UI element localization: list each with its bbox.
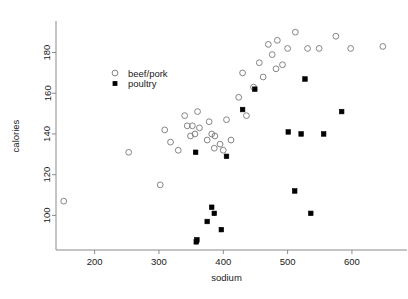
data-point-open-circle xyxy=(220,147,226,153)
data-point-filled-square xyxy=(224,154,229,159)
data-point-open-circle xyxy=(274,37,280,43)
x-tick-label: 500 xyxy=(280,256,296,267)
x-tick-label: 300 xyxy=(151,256,167,267)
y-axis-title: calories xyxy=(10,119,21,152)
plot-canvas: 100120140160180200300400500600sodiumcalo… xyxy=(0,0,408,299)
data-point-open-circle xyxy=(380,44,386,50)
data-point-filled-square xyxy=(209,205,214,210)
x-tick-label: 600 xyxy=(344,256,360,267)
x-tick-label: 400 xyxy=(215,256,231,267)
data-point-open-circle xyxy=(240,70,246,76)
legend-label-beef-pork: beef/pork xyxy=(128,68,168,79)
data-point-open-circle xyxy=(175,147,181,153)
scatter-plot-figure: 100120140160180200300400500600sodiumcalo… xyxy=(0,0,408,299)
data-point-open-circle xyxy=(61,198,67,204)
data-point-open-circle xyxy=(348,46,354,52)
legend-marker-filled-square xyxy=(113,81,118,86)
data-point-filled-square xyxy=(292,189,297,194)
data-point-filled-square xyxy=(308,211,313,216)
data-point-open-circle xyxy=(206,119,212,125)
legend-marker-open-circle xyxy=(112,70,118,76)
data-point-filled-square xyxy=(253,87,258,92)
data-point-open-circle xyxy=(260,74,266,80)
data-point-open-circle xyxy=(280,62,286,68)
data-point-open-circle xyxy=(162,127,168,133)
data-point-filled-square xyxy=(299,132,304,137)
data-point-open-circle xyxy=(228,137,234,143)
legend-label-poultry: poultry xyxy=(128,78,157,89)
x-tick-label: 200 xyxy=(87,256,103,267)
axes-group: 100120140160180200300400500600sodiumcalo… xyxy=(10,21,407,283)
data-point-filled-square xyxy=(240,107,245,112)
data-point-open-circle xyxy=(195,109,201,115)
series-beef-pork xyxy=(61,29,386,204)
data-point-open-circle xyxy=(305,46,311,52)
data-point-open-circle xyxy=(256,60,262,66)
data-point-open-circle xyxy=(217,141,223,147)
data-point-open-circle xyxy=(269,52,275,58)
data-point-open-circle xyxy=(292,29,298,35)
y-tick-label: 100 xyxy=(42,207,53,223)
data-point-open-circle xyxy=(168,139,174,145)
data-point-filled-square xyxy=(195,238,200,243)
data-point-open-circle xyxy=(157,182,163,188)
y-tick-label: 160 xyxy=(42,85,53,101)
data-point-filled-square xyxy=(193,150,198,155)
y-tick-label: 120 xyxy=(42,167,53,183)
data-point-filled-square xyxy=(212,211,217,216)
data-point-open-circle xyxy=(236,94,242,100)
data-point-filled-square xyxy=(286,130,291,135)
data-point-open-circle xyxy=(224,117,230,123)
data-point-open-circle xyxy=(197,125,203,131)
data-point-open-circle xyxy=(244,113,250,119)
data-point-open-circle xyxy=(285,46,291,52)
series-poultry xyxy=(193,77,344,244)
data-point-open-circle xyxy=(204,137,210,143)
data-point-filled-square xyxy=(339,109,344,114)
x-axis-title: sodium xyxy=(211,272,242,283)
data-points-group xyxy=(61,29,386,244)
data-point-open-circle xyxy=(182,113,188,119)
data-point-open-circle xyxy=(211,145,217,151)
legend-group: beef/porkpoultry xyxy=(112,68,168,90)
data-point-filled-square xyxy=(219,227,224,232)
data-point-filled-square xyxy=(205,219,210,224)
y-tick-label: 140 xyxy=(42,126,53,142)
data-point-filled-square xyxy=(303,77,308,82)
y-tick-label: 180 xyxy=(42,45,53,61)
data-point-filled-square xyxy=(321,132,326,137)
data-point-open-circle xyxy=(265,41,271,47)
data-point-open-circle xyxy=(333,33,339,39)
data-point-open-circle xyxy=(316,46,322,52)
data-point-open-circle xyxy=(126,149,132,155)
data-point-open-circle xyxy=(273,66,279,72)
